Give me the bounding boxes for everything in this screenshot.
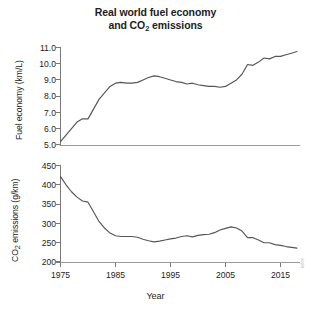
x-tick-label-1995: 1995: [151, 270, 191, 280]
x-axis-ticks: [61, 263, 281, 268]
y-tick-label-350: 350: [26, 199, 56, 209]
watermark-text: ielts: [299, 258, 305, 268]
y-tick-label-200: 200: [26, 257, 56, 267]
top-panel-axes: [56, 47, 300, 146]
y-tick-label-9: 9.0: [26, 75, 56, 85]
chart-figure: Real world fuel economy and CO2 emission…: [0, 0, 311, 313]
x-tick-label-1975: 1975: [41, 270, 81, 280]
y-tick-label-300: 300: [26, 219, 56, 229]
y-tick-label-250: 250: [26, 238, 56, 248]
bottom-panel-axes: [56, 165, 300, 263]
y-tick-label-450: 450: [26, 161, 56, 171]
y-tick-label-10: 10.0: [26, 59, 56, 69]
y-tick-label-400: 400: [26, 180, 56, 190]
y-tick-label-11: 11.0: [26, 43, 56, 53]
x-tick-label-1985: 1985: [96, 270, 136, 280]
x-tick-label-2005: 2005: [206, 270, 246, 280]
series-line-fuel-economy: [61, 52, 298, 142]
series-line-co2-emissions: [61, 177, 298, 248]
y-tick-label-6: 6.0: [26, 124, 56, 134]
y-tick-label-7: 7.0: [26, 108, 56, 118]
y-tick-label-5: 5.0: [26, 140, 56, 150]
y-tick-label-8: 8.0: [26, 91, 56, 101]
x-tick-label-2015: 2015: [261, 270, 301, 280]
